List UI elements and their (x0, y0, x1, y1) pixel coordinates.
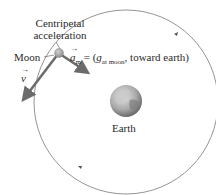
accel-direction: , toward earth) (125, 51, 189, 63)
acceleration-equation: am = (gat moon, toward earth) (70, 51, 189, 68)
centripetal-acceleration-label: Centripetal acceleration (22, 17, 98, 41)
accel-equals: = ( (84, 51, 97, 63)
earth-label: Earth (112, 122, 136, 134)
accel-symbol: a (70, 51, 76, 63)
centripetal-label-line1: Centripetal (22, 17, 98, 29)
centripetal-label-line2: acceleration (22, 29, 98, 41)
moon-icon (55, 49, 64, 58)
orbit-direction-arrow-bottom-left-icon (78, 166, 82, 169)
velocity-symbol: v (21, 72, 26, 84)
orbit-direction-arrow-top-right-icon (174, 32, 178, 36)
earth-icon (110, 85, 142, 117)
g-subscript: at moon (102, 58, 125, 66)
accel-subscript: m (76, 58, 81, 66)
moon-label: Moon (14, 51, 40, 63)
moon-leader-line (44, 55, 54, 57)
velocity-label: v (21, 72, 26, 84)
